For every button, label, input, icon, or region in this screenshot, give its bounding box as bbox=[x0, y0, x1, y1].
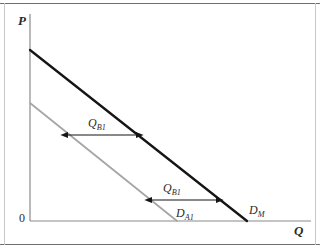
quantity-gap-lower-label-sub: B1 bbox=[172, 188, 181, 197]
plot-area bbox=[0, 0, 320, 250]
demand-curve-market bbox=[30, 50, 247, 221]
x-axis-label: Q bbox=[294, 224, 303, 237]
demand-curve-market-label: DM bbox=[249, 204, 264, 216]
quantity-gap-upper-label-text: Q bbox=[88, 116, 97, 130]
quantity-gap-upper-label: QB1 bbox=[88, 117, 106, 129]
figure-container: P Q 0 DM DA1 QB1 QB1 bbox=[0, 0, 320, 250]
quantity-gap-upper-label-sub: B1 bbox=[97, 123, 106, 132]
demand-curve-firm-a-label-text: D bbox=[176, 206, 185, 220]
origin-label: 0 bbox=[19, 212, 25, 224]
quantity-gap-lower-label: QB1 bbox=[163, 182, 181, 194]
demand-curve-firm-a-label-sub: A1 bbox=[185, 213, 194, 222]
demand-curve-firm-a-label: DA1 bbox=[176, 207, 194, 219]
demand-curve-market-label-text: D bbox=[249, 203, 258, 217]
demand-curve-market-label-sub: M bbox=[258, 210, 265, 219]
y-axis-label: P bbox=[18, 14, 26, 27]
quantity-gap-lower-label-text: Q bbox=[163, 181, 172, 195]
